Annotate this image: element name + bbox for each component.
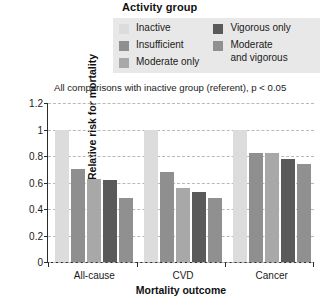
legend-item-insufficient[interactable]: Insufficient [119,38,209,55]
legend-item-moderate-and-vigorous[interactable]: Moderate and vigorous [213,38,320,66]
x-axis-tick-mark [225,262,226,267]
x-axis-tick-mark [48,262,49,267]
legend-item-vigorous-only[interactable]: Vigorous only [213,21,320,38]
x-axis-tick-label: CVD [172,270,193,281]
bar[interactable] [281,159,295,262]
legend-title: Activity group [122,1,197,13]
y-axis-tick-label: 0 [37,257,43,268]
legend-box: Inactive Insufficient Moderate only Vigo… [113,18,320,73]
legend-column-right: Vigorous only Moderate and vigorous [209,21,320,73]
bar[interactable] [297,164,311,262]
y-axis-tick-label: 0.4 [29,204,43,215]
legend-column-left: Inactive Insufficient Moderate only [113,21,209,73]
legend-item-moderate-only[interactable]: Moderate only [119,55,209,72]
legend-swatch-icon [213,41,223,51]
x-axis-tick-label: All-cause [74,270,115,281]
legend-swatch-icon [213,24,223,34]
bar[interactable] [119,198,133,262]
x-axis-tick-label: Cancer [256,270,288,281]
bar[interactable] [160,172,174,262]
legend-swatch-icon [119,41,129,51]
bar[interactable] [249,153,263,262]
bar[interactable] [103,180,117,262]
x-axis-tick-mark [137,262,138,267]
bar-group-all-cause [55,103,135,262]
bar-group-cvd [144,103,224,262]
y-axis-tick-label: 1 [37,124,43,135]
bar-group-cancer [233,103,313,262]
legend-swatch-icon [119,24,129,34]
legend-item-label: Moderate and vigorous [230,38,287,64]
y-axis-tick-label: 0.8 [29,151,43,162]
x-axis-tick-mark [313,262,314,267]
bar[interactable] [233,130,247,263]
gridline [48,262,314,263]
legend-swatch-icon [119,58,129,68]
y-axis-tick-label: 0.6 [29,177,43,188]
x-axis-title: Mortality outcome [48,284,314,296]
bars-layer [48,103,314,262]
bar[interactable] [71,169,85,262]
bar[interactable] [55,130,69,263]
bar-chart-plot-area: All comparisons with inactive group (ref… [47,103,314,263]
y-axis-tick-label: 1.2 [29,98,43,109]
bar[interactable] [265,153,279,262]
legend-item-inactive[interactable]: Inactive [119,21,209,38]
legend-item-label: Inactive [136,21,170,35]
legend-item-label: Vigorous only [230,21,290,35]
bar[interactable] [87,179,101,262]
bar[interactable] [176,188,190,262]
legend-item-label: Moderate only [136,55,199,69]
legend-item-label: Insufficient [136,38,184,52]
bar[interactable] [144,130,158,263]
bar[interactable] [208,198,222,262]
y-axis-tick-label: 0.2 [29,230,43,241]
bar[interactable] [192,192,206,262]
